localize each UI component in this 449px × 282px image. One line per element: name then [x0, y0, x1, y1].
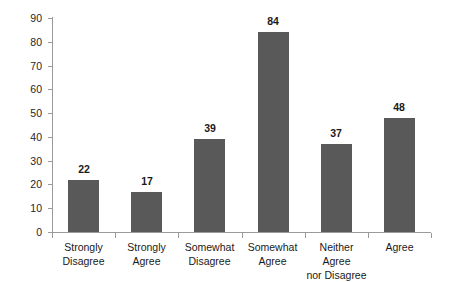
y-tick-label: 70	[14, 61, 42, 72]
bar[interactable]	[68, 180, 99, 232]
bar-chart: 0102030405060708090 221739843748 Strongl…	[0, 0, 449, 282]
bar-value-label: 84	[248, 16, 298, 27]
x-tick-mark	[368, 233, 369, 238]
y-tick-label: 10	[14, 203, 42, 214]
y-tick-mark	[48, 42, 52, 43]
y-tick-label: 20	[14, 179, 42, 190]
x-category-label: Agree	[368, 240, 431, 254]
y-tick-label: 0	[14, 227, 42, 238]
y-tick-mark	[48, 113, 52, 114]
bar-value-label: 37	[311, 128, 361, 139]
bar[interactable]	[258, 32, 289, 232]
y-tick-label: 30	[14, 156, 42, 167]
bar-value-label: 22	[59, 164, 109, 175]
x-category-label: Strongly Disagree	[52, 240, 115, 268]
bar[interactable]	[194, 139, 225, 232]
y-tick-mark	[48, 137, 52, 138]
y-axis-line	[52, 17, 53, 233]
bar[interactable]	[321, 144, 352, 232]
y-tick-label: 60	[14, 84, 42, 95]
y-tick-mark	[48, 184, 52, 185]
bar-value-label: 48	[374, 102, 424, 113]
x-category-label: Neither Agree nor Disagree	[305, 240, 368, 282]
x-tick-mark	[242, 233, 243, 238]
y-tick-mark	[48, 208, 52, 209]
x-category-label: Somewhat Agree	[241, 240, 304, 268]
y-tick-label: 90	[14, 13, 42, 24]
y-tick-label: 40	[14, 132, 42, 143]
y-tick-label: 50	[14, 108, 42, 119]
x-tick-mark	[305, 233, 306, 238]
x-tick-mark	[178, 233, 179, 238]
x-tick-mark	[431, 233, 432, 238]
x-tick-mark	[115, 233, 116, 238]
y-tick-label: 80	[14, 37, 42, 48]
y-tick-mark	[48, 18, 52, 19]
bar[interactable]	[131, 192, 162, 232]
x-category-label: Somewhat Disagree	[178, 240, 241, 268]
bar-value-label: 17	[122, 176, 172, 187]
bar[interactable]	[384, 118, 415, 232]
bar-value-label: 39	[185, 123, 235, 134]
y-tick-mark	[48, 161, 52, 162]
y-tick-mark	[48, 89, 52, 90]
x-category-label: Strongly Agree	[115, 240, 178, 268]
y-tick-mark	[48, 66, 52, 67]
x-tick-mark	[52, 233, 53, 238]
